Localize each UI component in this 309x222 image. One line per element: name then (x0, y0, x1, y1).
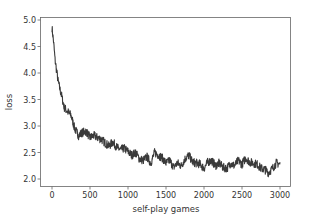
y-tick-label: 2.5 (23, 149, 36, 158)
x-tick-label: 1500 (156, 191, 176, 200)
x-tick-label: 500 (82, 191, 97, 200)
loss-chart: 2.02.53.03.54.04.55.0 050010001500200025… (0, 0, 309, 222)
x-tick-label: 1000 (118, 191, 138, 200)
x-tick-label: 0 (49, 191, 54, 200)
plot-area (41, 18, 291, 187)
y-axis-label: loss (4, 93, 14, 110)
x-tick-label: 2000 (194, 191, 214, 200)
y-tick-label: 4.5 (23, 43, 36, 52)
x-tick-label: 3000 (270, 191, 290, 200)
loss-line (52, 27, 280, 177)
y-tick-label: 2.0 (23, 175, 36, 184)
y-tick-label: 4.0 (23, 69, 36, 78)
x-tick-label: 2500 (232, 191, 252, 200)
y-axis: 2.02.53.03.54.04.55.0 (23, 16, 40, 184)
x-axis-label: self-play games (133, 204, 200, 214)
y-tick-label: 3.5 (23, 96, 36, 105)
x-axis: 050010001500200025003000 (49, 187, 290, 201)
y-tick-label: 3.0 (23, 122, 36, 131)
y-tick-label: 5.0 (23, 16, 36, 25)
